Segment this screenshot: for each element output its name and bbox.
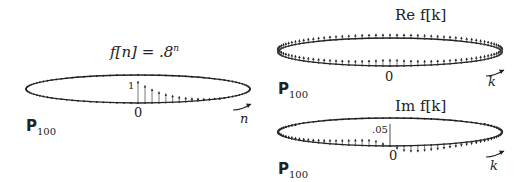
- diagram-canvas: [0, 0, 528, 182]
